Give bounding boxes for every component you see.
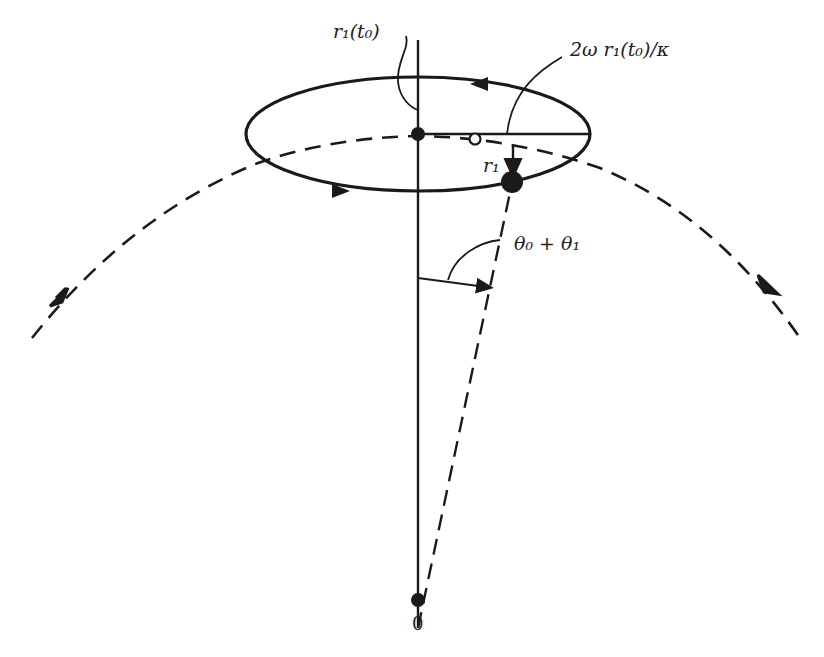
diagram-canvas: r₁(t₀) 2ω r₁(t₀)/κ r₁ θ₀ + θ₁ 0 — [0, 0, 824, 657]
label-r1: r₁ — [483, 154, 500, 176]
guiding-center-dot — [411, 127, 425, 141]
label-axis-length: 2ω r₁(t₀)/κ — [569, 38, 670, 60]
open-circle-marker — [470, 134, 481, 145]
angle-arrow — [418, 278, 486, 287]
particle-dot — [501, 171, 523, 193]
label-angle: θ₀ + θ₁ — [514, 232, 580, 254]
dashed-circular-orbit — [32, 136, 800, 338]
axis-length-leader — [507, 57, 562, 134]
orbit-arrow-left-icon — [50, 288, 68, 306]
label-r1-t0: r₁(t₀) — [333, 20, 380, 42]
r1-t0-leader — [398, 36, 418, 110]
label-origin: 0 — [412, 613, 423, 634]
dashed-radius-line — [418, 183, 512, 628]
origin-dot — [411, 593, 425, 607]
orbit-arrow-right-icon — [758, 275, 778, 294]
